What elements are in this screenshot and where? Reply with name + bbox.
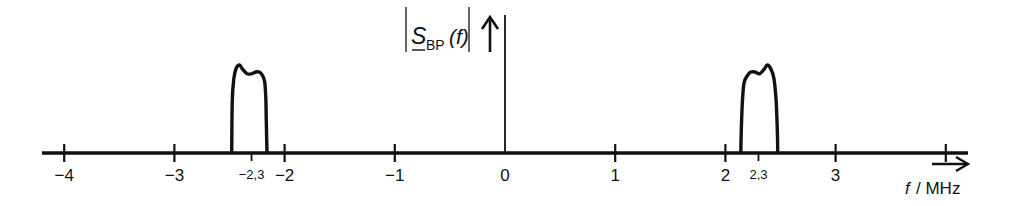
x-tick-label: −1 xyxy=(385,166,404,185)
x-tick-label: −2 xyxy=(275,166,294,185)
x-tick-labels: −4−3−2−10123 xyxy=(55,166,841,185)
x-axis-label: f / MHz xyxy=(905,157,968,198)
y-label-subscript: BP xyxy=(426,37,445,53)
x-tick-label: 2 xyxy=(721,166,730,185)
x-tick-label: −3 xyxy=(165,166,184,185)
x-tick-label: 3 xyxy=(831,166,840,185)
x-tick-label: −4 xyxy=(55,166,74,185)
negative-band-curve xyxy=(232,65,267,153)
positive-band-curve xyxy=(741,65,778,153)
y-label-argument: (f) xyxy=(449,25,469,48)
y-axis-label: S BP (f) xyxy=(406,7,498,53)
y-label-symbol: S xyxy=(411,23,427,49)
minor-tick-label: 2,3 xyxy=(749,167,767,182)
x-tick-label: 1 xyxy=(610,166,619,185)
minor-tick-label: −2,3 xyxy=(239,167,265,182)
bandpass-spectrum-figure: −2,32,3 −4−3−2−10123 S BP (f) f / MHz xyxy=(0,0,1009,206)
x-tick-label: 0 xyxy=(500,166,509,185)
x-label-unit: / MHz xyxy=(916,179,960,198)
x-label-variable: f xyxy=(905,179,912,198)
